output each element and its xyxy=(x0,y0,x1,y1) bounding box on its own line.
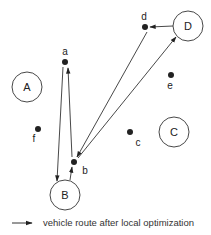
customer-e: e xyxy=(167,72,174,91)
customer-label: f xyxy=(33,133,36,144)
depot-A: A xyxy=(12,72,42,102)
customer-label: a xyxy=(62,46,68,57)
route-arrow-D-to-d xyxy=(150,26,173,27)
depot-label: C xyxy=(170,126,178,138)
customer-f: f xyxy=(33,126,41,144)
customer-dot xyxy=(35,126,41,132)
customer-label: e xyxy=(167,80,173,91)
route-arrows xyxy=(57,26,176,181)
legend-label: vehicle route after local optimization xyxy=(43,217,194,228)
customer-dot xyxy=(62,59,68,65)
customer-label: b xyxy=(82,165,88,176)
depots: ABCD xyxy=(12,11,203,210)
depot-C: C xyxy=(159,117,189,147)
route-arrow-B-to-b xyxy=(70,167,72,180)
customer-dot xyxy=(168,72,174,78)
depot-label: D xyxy=(184,20,192,32)
customer-d: d xyxy=(141,11,148,30)
customer-dot xyxy=(71,159,77,165)
depot-B: B xyxy=(50,180,80,210)
customer-label: d xyxy=(141,11,147,22)
depot-label: A xyxy=(23,81,31,93)
customer-label: c xyxy=(136,137,141,148)
customer-b: b xyxy=(71,159,88,176)
customer-dot xyxy=(142,24,148,30)
depot-label: B xyxy=(61,189,68,201)
customer-dot xyxy=(127,129,133,135)
customer-c: c xyxy=(127,129,141,148)
route-arrow-b-to-a xyxy=(68,68,72,157)
customers: abcdef xyxy=(33,11,174,176)
routing-diagram: ABCD abcdef xyxy=(0,0,211,235)
customer-a: a xyxy=(62,46,68,65)
depot-D: D xyxy=(173,11,203,41)
route-arrow-a-to-B xyxy=(57,67,63,181)
